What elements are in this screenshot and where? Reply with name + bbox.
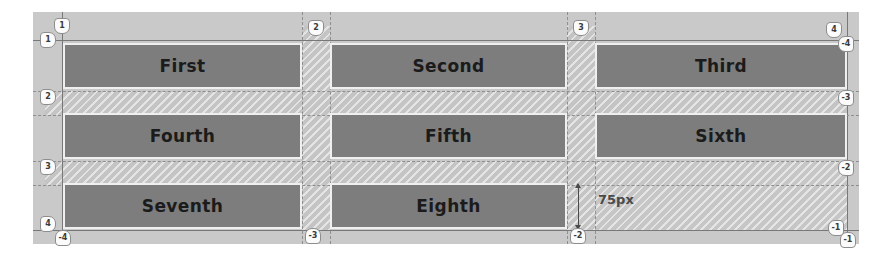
gap-dimension-label: 75px: [598, 192, 634, 207]
badge-row-line-1-left[interactable]: 1: [40, 32, 56, 48]
badge-row-line-neg4-right[interactable]: -4: [838, 36, 854, 52]
grid-inspector-overlay: First Second Third Fourth Fifth Sixth Se…: [0, 0, 892, 262]
grid-item-label: Seventh: [142, 196, 224, 216]
badge-column-line-neg2-bottom[interactable]: -2: [570, 228, 586, 244]
grid-item-label: Eighth: [416, 196, 480, 216]
badge-value: -3: [309, 232, 318, 240]
badge-value: -4: [59, 234, 68, 242]
badge-column-line-neg1-bottom[interactable]: -1: [840, 232, 856, 248]
badge-value: 2: [45, 93, 51, 101]
grid-item-seventh[interactable]: Seventh: [63, 183, 302, 229]
badge-column-line-1-top[interactable]: 1: [54, 18, 70, 34]
badge-value: 3: [45, 163, 51, 171]
grid-item-sixth[interactable]: Sixth: [595, 113, 847, 159]
badge-column-line-2-top[interactable]: 2: [308, 20, 324, 36]
grid-item-label: Second: [412, 56, 484, 76]
grid-item-label: Fifth: [425, 126, 472, 146]
badge-row-line-neg3-right[interactable]: -3: [838, 90, 854, 106]
badge-value: 3: [578, 24, 584, 32]
badge-value: 1: [59, 22, 65, 30]
badge-value: -3: [842, 94, 851, 102]
grid-item-second[interactable]: Second: [330, 43, 567, 89]
badge-value: -2: [574, 232, 583, 240]
badge-value: -2: [842, 164, 851, 172]
badge-value: 4: [831, 26, 837, 34]
badge-value: 1: [45, 36, 51, 44]
grid-item-label: First: [159, 56, 205, 76]
column-gap-band-1: [302, 26, 330, 230]
grid-item-label: Sixth: [695, 126, 746, 146]
grid-item-label: Third: [695, 56, 747, 76]
badge-value: -1: [832, 224, 841, 232]
grid-item-first[interactable]: First: [63, 43, 302, 89]
grid-item-fifth[interactable]: Fifth: [330, 113, 567, 159]
badge-row-line-4-left[interactable]: 4: [40, 216, 56, 232]
grid-item-third[interactable]: Third: [595, 43, 847, 89]
grid-item-eighth[interactable]: Eighth: [330, 183, 567, 229]
badge-column-line-3-top[interactable]: 3: [573, 20, 589, 36]
badge-column-line-4-top[interactable]: 4: [826, 22, 842, 38]
grid-item-label: Fourth: [150, 126, 216, 146]
badge-column-line-neg4-bottom[interactable]: -4: [55, 230, 71, 246]
column-gap-band-2: [567, 26, 595, 230]
badge-row-line-neg2-right[interactable]: -2: [838, 160, 854, 176]
badge-value: -4: [842, 40, 851, 48]
badge-row-line-3-left[interactable]: 3: [40, 159, 56, 175]
gap-dimension-arrow: [578, 184, 579, 229]
row-gap-band-1: [45, 91, 847, 115]
grid-item-fourth[interactable]: Fourth: [63, 113, 302, 159]
badge-value: 2: [313, 24, 319, 32]
badge-column-line-neg3-bottom[interactable]: -3: [305, 228, 321, 244]
badge-value: -1: [844, 236, 853, 244]
badge-row-line-2-left[interactable]: 2: [40, 89, 56, 105]
badge-value: 4: [45, 220, 51, 228]
